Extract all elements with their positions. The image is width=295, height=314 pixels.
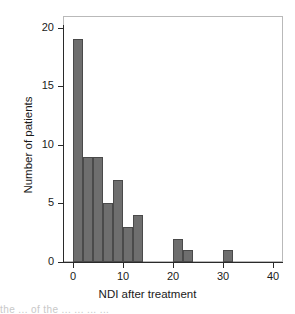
- x-axis-label: NDI after treatment: [0, 288, 295, 300]
- y-axis-label: Number of patients: [22, 65, 34, 225]
- y-tick-mark: [58, 86, 63, 87]
- x-tick-mark: [73, 263, 74, 268]
- histogram-bar: [113, 180, 123, 262]
- x-tick-mark: [273, 263, 274, 268]
- x-tick-label: 0: [53, 270, 93, 283]
- y-tick-mark: [58, 203, 63, 204]
- x-tick-label: 30: [203, 270, 243, 283]
- x-tick-label: 10: [103, 270, 143, 283]
- y-tick-mark: [58, 262, 63, 263]
- y-axis-line: [63, 25, 64, 262]
- x-tick-mark: [123, 263, 124, 268]
- histogram-bar: [173, 239, 183, 262]
- histogram-bar: [103, 203, 113, 262]
- y-tick-label: 20: [26, 22, 54, 33]
- histogram-bar: [93, 157, 103, 262]
- histogram-bar: [183, 250, 193, 262]
- plot-area: [63, 16, 283, 262]
- histogram-bar: [123, 227, 133, 262]
- page-text-bleed: the ... of the ... ... ... ...: [0, 304, 295, 314]
- histogram-bar: [223, 250, 233, 262]
- histogram-bar: [133, 215, 143, 262]
- x-tick-mark: [173, 263, 174, 268]
- x-tick-label: 20: [153, 270, 193, 283]
- y-tick-mark: [58, 28, 63, 29]
- histogram-figure: 010203040 05101520 NDI after treatment N…: [0, 0, 295, 314]
- histogram-bar: [73, 39, 83, 262]
- y-tick-mark: [58, 145, 63, 146]
- x-tick-label: 40: [253, 270, 293, 283]
- histogram-bar: [83, 157, 93, 262]
- y-tick-label: 0: [26, 256, 54, 267]
- x-tick-mark: [223, 263, 224, 268]
